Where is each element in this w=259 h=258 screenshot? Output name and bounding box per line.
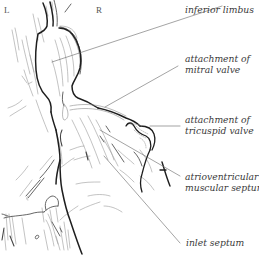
orientation-right: R (96, 5, 102, 15)
label-attachment-tricuspid-valve: attachment of tricuspid valve (185, 115, 254, 136)
tricuspid-leaflet-outline (126, 123, 155, 192)
leader-inlet-septum (104, 156, 180, 243)
label-inlet-septum: inlet septum (186, 238, 244, 249)
dark-strokes (2, 130, 88, 246)
sketch-lines (4, 2, 154, 250)
leader-mitral-valve (105, 66, 178, 107)
label-inferior-limbus: inferior limbus (185, 5, 254, 16)
leader-av-septum (100, 130, 180, 176)
orientation-left: L (4, 5, 10, 15)
structure-lines (2, 0, 142, 239)
anatomy-diagram: L R inferior limbus attachment of mitral… (0, 0, 259, 258)
label-attachment-mitral-valve: attachment of mitral valve (185, 54, 250, 75)
label-atrioventricular-muscular-septum: atrioventricular muscular septum (185, 172, 259, 193)
